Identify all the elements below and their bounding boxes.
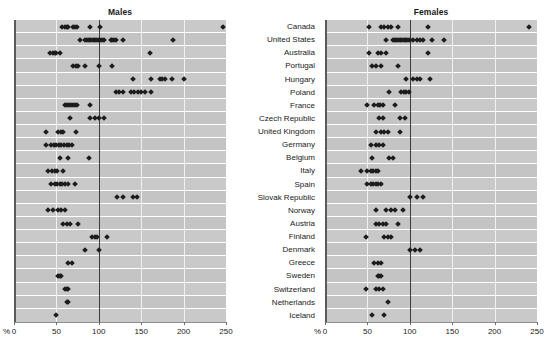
country-label: Switzerland [231,283,319,296]
x-axis-males: % 050100150200250 [14,322,226,344]
x-axis-females: % 050100150200250 [325,322,537,344]
country-label: Hungary [231,73,319,86]
axis-tick-250 [537,322,538,325]
axis-tick-label-200: 200 [177,327,190,336]
country-label: Iceland [231,309,319,322]
row-band [325,269,537,282]
row-band [325,230,537,243]
country-label: Sweden [231,269,319,282]
axis-tick-label-150: 150 [135,327,148,336]
axis-tick-0 [14,322,15,325]
row-band [325,164,537,177]
country-label: France [231,99,319,112]
row-band [14,46,226,59]
country-label: Germany [231,138,319,151]
row-band [325,125,537,138]
row-band [14,309,226,322]
axis-tick-label-0: 0 [323,327,327,336]
row-band [14,217,226,230]
row-band [325,204,537,217]
row-band [14,20,226,33]
country-label-column: CanadaUnited StatesAustraliaPortugalHung… [231,20,319,322]
row-band [14,296,226,309]
row-band [14,112,226,125]
country-label: United States [231,33,319,46]
axis-tick-150 [141,322,142,325]
axis-tick-200 [495,322,496,325]
axis-tick-50 [56,322,57,325]
axis-tick-200 [184,322,185,325]
country-label: Finland [231,230,319,243]
axis-line [325,322,537,323]
row-bands-females [325,20,537,322]
plot-area-males [14,20,226,322]
row-band [325,151,537,164]
country-label: Poland [231,86,319,99]
row-band [14,230,226,243]
country-label: Spain [231,178,319,191]
axis-tick-label-100: 100 [92,327,105,336]
axis-unit-label-females: % [314,327,321,336]
row-band [325,309,537,322]
axis-tick-label-250: 250 [530,327,543,336]
row-band [14,178,226,191]
country-label: Canada [231,20,319,33]
row-band [14,99,226,112]
country-label: Slovak Republic [231,191,319,204]
row-band [14,73,226,86]
country-label: Norway [231,204,319,217]
axis-tick-50 [367,322,368,325]
row-band [325,86,537,99]
country-label: Belgium [231,151,319,164]
country-label: Australia [231,46,319,59]
axis-tick-label-150: 150 [446,327,459,336]
plot-area-females [325,20,537,322]
row-band [325,217,537,230]
row-band [14,256,226,269]
country-label: United Kingdom [231,125,319,138]
country-label: Austria [231,217,319,230]
axis-tick-label-0: 0 [12,327,16,336]
clipped-header-strip [0,0,539,3]
row-band [325,283,537,296]
row-band [14,283,226,296]
country-label: Denmark [231,243,319,256]
axis-tick-label-100: 100 [403,327,416,336]
row-band [325,178,537,191]
panel-title-females: Females [325,7,537,17]
panel-title-males: Males [14,7,226,17]
row-band [14,243,226,256]
row-band [325,138,537,151]
row-band [325,243,537,256]
axis-line [14,322,226,323]
axis-tick-100 [99,322,100,325]
axis-tick-label-250: 250 [219,327,232,336]
country-label: Italy [231,164,319,177]
axis-tick-250 [226,322,227,325]
row-band [325,99,537,112]
row-band [325,256,537,269]
axis-unit-label-males: % [3,327,10,336]
country-label: Czech Republic [231,112,319,125]
row-band [325,296,537,309]
axis-tick-label-50: 50 [52,327,61,336]
country-label: Greece [231,256,319,269]
axis-tick-label-200: 200 [488,327,501,336]
row-band [325,191,537,204]
row-band [325,59,537,72]
row-band [14,59,226,72]
axis-tick-150 [452,322,453,325]
country-label: Netherlands [231,296,319,309]
row-band [14,151,226,164]
axis-tick-0 [325,322,326,325]
country-label: Portugal [231,59,319,72]
axis-tick-100 [410,322,411,325]
axis-tick-label-50: 50 [363,327,372,336]
row-band [14,269,226,282]
row-band [325,112,537,125]
